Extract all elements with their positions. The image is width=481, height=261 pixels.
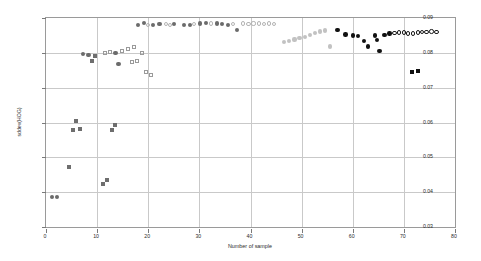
data-point: [130, 60, 134, 64]
y-axis-tick: [42, 227, 46, 228]
data-point: [282, 40, 286, 44]
data-point: [429, 29, 433, 33]
gridline-vertical: [199, 18, 200, 227]
y-axis-tick-label: 0.04: [423, 188, 433, 194]
data-point: [424, 30, 428, 34]
data-point: [108, 50, 112, 54]
gridline-vertical: [404, 18, 405, 227]
data-point: [140, 51, 144, 55]
y-axis-tick-label: 0.09: [423, 14, 433, 20]
data-point: [356, 34, 360, 38]
x-axis-tick-label: 60: [349, 233, 355, 239]
gridline-vertical: [97, 18, 98, 227]
x-axis-tick-label: 30: [195, 233, 201, 239]
data-point: [157, 22, 161, 26]
data-point: [387, 31, 391, 35]
data-point: [126, 47, 130, 51]
data-point: [351, 33, 355, 37]
data-point: [55, 195, 59, 199]
data-point: [231, 22, 235, 26]
y-axis-tick-label: 0.08: [423, 49, 433, 55]
data-point: [120, 49, 124, 53]
gridline-vertical: [302, 18, 303, 227]
data-point: [262, 22, 266, 26]
gridline-vertical: [148, 18, 149, 227]
y-axis-tick: [42, 53, 46, 54]
data-point: [105, 178, 109, 182]
x-axis-title: Number of sample: [228, 243, 272, 249]
data-point: [416, 69, 420, 73]
data-point: [71, 128, 75, 132]
data-point: [144, 70, 148, 74]
data-point: [251, 21, 255, 25]
y-axis-tick: [42, 88, 46, 89]
y-axis-tick-label: 0.03: [423, 223, 433, 229]
x-axis-tick-label: 80: [451, 233, 457, 239]
data-point: [313, 31, 317, 35]
data-point: [215, 21, 219, 25]
data-point: [235, 28, 239, 32]
data-point: [241, 21, 245, 25]
data-point: [318, 29, 322, 33]
data-point: [136, 23, 140, 27]
y-axis-title: sddev(HOG): [16, 107, 22, 136]
data-point: [74, 119, 78, 123]
data-point: [113, 123, 117, 127]
data-point: [93, 54, 97, 58]
data-point: [292, 37, 296, 41]
data-point: [220, 22, 224, 26]
data-point: [103, 51, 107, 55]
data-point: [303, 35, 307, 39]
data-point: [110, 128, 114, 132]
data-point: [272, 22, 276, 26]
data-point: [146, 23, 150, 27]
data-point: [81, 52, 85, 56]
data-point: [308, 33, 312, 37]
y-axis-tick: [42, 18, 46, 19]
data-point: [90, 59, 94, 63]
data-point: [287, 39, 291, 43]
y-axis-tick: [42, 192, 46, 193]
data-point: [168, 23, 172, 27]
data-point: [116, 62, 120, 66]
data-point: [151, 23, 155, 27]
data-point: [204, 21, 208, 25]
data-point: [257, 21, 261, 25]
gridline-vertical: [251, 18, 252, 227]
data-point: [267, 21, 271, 25]
data-point: [297, 36, 301, 40]
data-point: [377, 49, 381, 53]
y-axis-tick-label: 0.07: [423, 84, 433, 90]
data-point: [397, 30, 401, 34]
data-point: [410, 70, 414, 74]
data-point: [113, 51, 117, 55]
data-point: [335, 28, 339, 32]
y-axis-tick-label: 0.06: [423, 119, 433, 125]
plot-area: [45, 17, 456, 228]
data-point: [246, 22, 250, 26]
data-point: [366, 44, 370, 48]
x-axis-tick-label: 10: [93, 233, 99, 239]
y-axis-tick: [42, 157, 46, 158]
data-point: [132, 45, 136, 49]
data-point: [182, 23, 186, 27]
x-axis-tick-label: 20: [144, 233, 150, 239]
data-point: [101, 182, 105, 186]
data-point: [323, 28, 327, 32]
data-point: [406, 31, 410, 35]
data-point: [209, 21, 213, 25]
data-point: [328, 44, 332, 48]
data-point: [198, 21, 202, 25]
x-axis-tick-label: 70: [400, 233, 406, 239]
scatter-chart: sddev(HOG) Number of sample 0.030.040.05…: [0, 0, 481, 261]
data-point: [434, 30, 438, 34]
data-point: [373, 33, 377, 37]
data-point: [78, 127, 82, 131]
x-axis-tick-label: 40: [247, 233, 253, 239]
data-point: [172, 22, 176, 26]
data-point: [86, 53, 90, 57]
data-point: [192, 22, 196, 26]
gridline-vertical: [353, 18, 354, 227]
data-point: [382, 33, 386, 37]
data-point: [149, 73, 153, 77]
